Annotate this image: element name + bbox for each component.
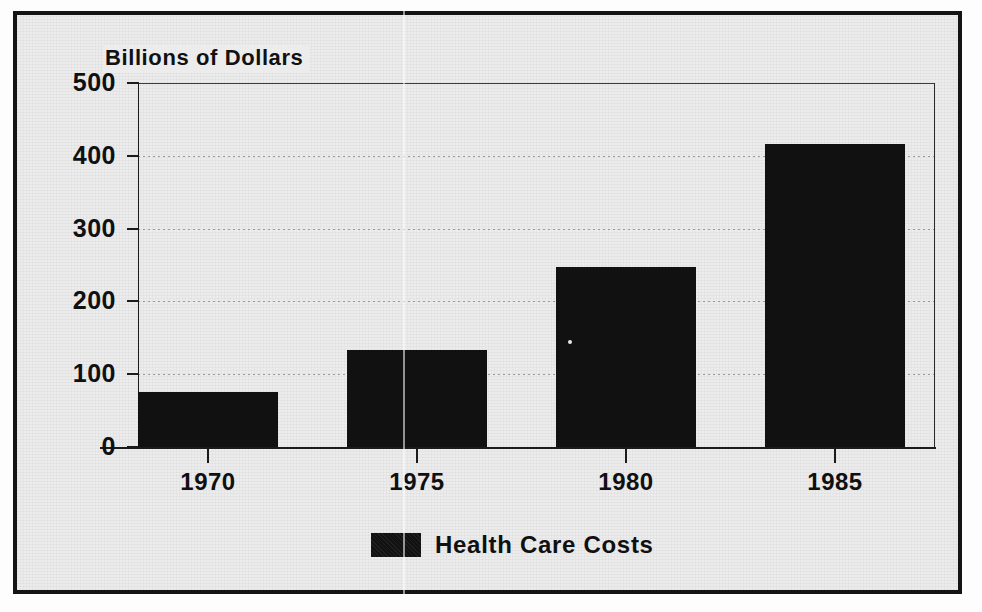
x-axis-line <box>100 447 936 449</box>
bar-chart-figure: 5004003002001000 Billions of Dollars 197… <box>0 0 982 612</box>
y-axis-label: 500 <box>30 70 116 95</box>
y-axis-label: 0 <box>30 434 116 459</box>
bar-1985 <box>765 144 905 447</box>
x-axis-label-1985: 1985 <box>755 468 915 496</box>
legend-swatch-health-care-costs <box>371 533 421 557</box>
y-axis-tick <box>127 228 139 230</box>
axis-title: Billions of Dollars <box>103 45 309 73</box>
x-axis-tick <box>834 449 836 463</box>
y-axis-tick <box>127 300 139 302</box>
x-axis-label-1970: 1970 <box>128 468 288 496</box>
y-axis-label: 400 <box>30 143 116 168</box>
bar-1970 <box>138 392 278 447</box>
x-axis-tick <box>625 449 627 463</box>
x-axis-label-1975: 1975 <box>337 468 497 496</box>
x-axis-label-1980: 1980 <box>546 468 706 496</box>
y-axis-label: 200 <box>30 288 116 313</box>
legend-label-health-care-costs: Health Care Costs <box>435 531 654 559</box>
bar-1980 <box>556 267 696 447</box>
scan-speck <box>568 340 572 344</box>
y-axis-label: 100 <box>30 361 116 386</box>
y-axis-tick <box>127 373 139 375</box>
x-axis-tick <box>416 449 418 463</box>
bar-1975 <box>347 350 487 447</box>
y-axis-tick <box>127 82 139 84</box>
y-axis-label: 300 <box>30 216 116 241</box>
plot-border-top <box>138 83 935 84</box>
legend: Health Care Costs <box>371 531 654 559</box>
y-axis-tick <box>127 155 139 157</box>
x-axis-tick <box>207 449 209 463</box>
plot-border-right <box>934 83 935 448</box>
